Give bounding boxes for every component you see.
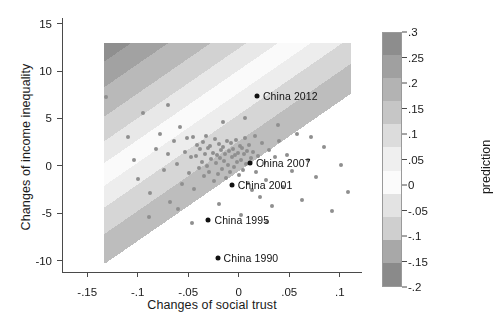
data-point bbox=[221, 120, 225, 124]
data-point bbox=[136, 177, 140, 181]
colorbar-tick-label: .15 bbox=[408, 103, 424, 115]
data-point bbox=[228, 170, 232, 174]
data-point bbox=[201, 140, 205, 144]
data-point bbox=[254, 170, 258, 174]
data-point bbox=[189, 155, 193, 159]
y-tick-label: 10 bbox=[18, 65, 52, 77]
y-tick-label: 15 bbox=[18, 18, 52, 30]
highlighted-data-point bbox=[206, 217, 211, 222]
colorbar-title: prediction bbox=[479, 107, 493, 227]
data-point bbox=[204, 134, 208, 138]
colorbar-tick-label: -.2 bbox=[408, 281, 421, 293]
data-point bbox=[243, 116, 247, 120]
data-point bbox=[270, 204, 274, 208]
data-point bbox=[330, 209, 334, 213]
data-point-label: China 1990 bbox=[224, 252, 279, 264]
data-point bbox=[243, 136, 247, 140]
data-point bbox=[208, 144, 212, 148]
data-point bbox=[220, 167, 224, 171]
data-point bbox=[346, 190, 350, 194]
data-point bbox=[277, 139, 281, 143]
data-point bbox=[162, 168, 166, 172]
data-point bbox=[192, 187, 196, 191]
x-tick-label: 0 bbox=[219, 286, 259, 298]
data-point-label: China 2007 bbox=[256, 157, 311, 169]
data-point bbox=[232, 165, 236, 169]
data-point bbox=[187, 171, 191, 175]
data-point bbox=[180, 182, 184, 186]
data-point bbox=[240, 146, 244, 150]
data-point bbox=[176, 207, 180, 211]
y-tick-label: -5 bbox=[18, 207, 52, 219]
y-tick-label: -10 bbox=[18, 255, 52, 267]
y-tick-label: 0 bbox=[18, 160, 52, 172]
data-point bbox=[226, 163, 230, 167]
colorbar-tick-label: -.1 bbox=[408, 230, 421, 242]
data-point bbox=[212, 179, 216, 183]
data-point bbox=[231, 147, 235, 151]
data-point bbox=[148, 191, 152, 195]
data-point bbox=[207, 170, 211, 174]
data-point-label: China 1995 bbox=[214, 214, 269, 226]
x-tick-label: -.15 bbox=[67, 286, 107, 298]
data-point bbox=[154, 147, 158, 151]
data-point bbox=[236, 151, 240, 155]
data-point bbox=[245, 149, 249, 153]
data-point bbox=[205, 164, 209, 168]
x-tick-label: -.05 bbox=[168, 286, 208, 298]
data-point bbox=[197, 166, 201, 170]
y-tick-label: 5 bbox=[18, 112, 52, 124]
data-point bbox=[158, 132, 162, 136]
data-point bbox=[241, 168, 245, 172]
colorbar-tick-label: -.15 bbox=[408, 256, 428, 268]
data-point bbox=[322, 145, 326, 149]
colorbar-tick-label: 0 bbox=[408, 179, 414, 191]
data-point bbox=[295, 132, 299, 136]
x-tick-label: -.1 bbox=[118, 286, 158, 298]
data-point bbox=[209, 157, 213, 161]
colorbar-tick-label: .1 bbox=[408, 128, 418, 140]
data-point bbox=[217, 202, 221, 206]
data-point bbox=[175, 162, 179, 166]
colorbar-tick-label: -.05 bbox=[408, 205, 428, 217]
data-point bbox=[191, 135, 195, 139]
colorbar-tick-label: .05 bbox=[408, 154, 424, 166]
data-point bbox=[339, 163, 343, 167]
data-point bbox=[216, 172, 220, 176]
highlighted-data-point bbox=[254, 93, 259, 98]
x-tick-label: .05 bbox=[269, 286, 309, 298]
data-point-label: China 2001 bbox=[238, 179, 293, 191]
highlighted-data-point bbox=[215, 255, 220, 260]
data-point bbox=[185, 136, 189, 140]
data-point bbox=[132, 158, 136, 162]
data-point bbox=[276, 123, 280, 127]
colorbar-tick-label: .3 bbox=[408, 26, 418, 38]
data-point bbox=[198, 147, 202, 151]
data-point bbox=[234, 138, 238, 142]
data-point bbox=[247, 143, 251, 147]
data-point bbox=[166, 152, 170, 156]
data-point bbox=[172, 139, 176, 143]
colorbar-gradient bbox=[382, 32, 402, 287]
highlighted-data-point bbox=[229, 182, 234, 187]
data-point bbox=[214, 161, 218, 165]
data-point bbox=[190, 221, 194, 225]
data-point bbox=[126, 135, 130, 139]
data-point bbox=[229, 141, 233, 145]
data-point bbox=[104, 95, 108, 99]
data-point-label: China 2012 bbox=[263, 90, 318, 102]
data-point bbox=[251, 150, 255, 154]
data-point bbox=[290, 169, 294, 173]
data-point bbox=[237, 173, 241, 177]
data-point bbox=[260, 141, 264, 145]
data-point bbox=[309, 135, 313, 139]
data-point bbox=[222, 159, 226, 163]
data-point bbox=[221, 145, 225, 149]
data-point bbox=[202, 174, 206, 178]
data-point bbox=[141, 111, 145, 115]
data-point bbox=[239, 158, 243, 162]
data-point bbox=[223, 152, 227, 156]
data-point bbox=[168, 200, 172, 204]
data-point bbox=[267, 148, 271, 152]
